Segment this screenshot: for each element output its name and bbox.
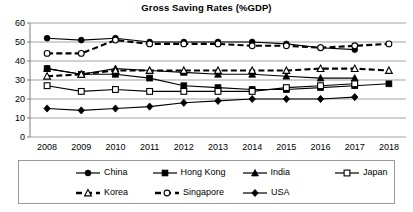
legend-row: ChinaHong KongIndiaJapan	[19, 162, 394, 183]
svg-text:2017: 2017	[345, 142, 365, 152]
svg-text:2013: 2013	[208, 142, 228, 152]
legend-item-label: Japan	[363, 168, 388, 177]
legend-key-icon	[152, 167, 178, 179]
svg-text:20: 20	[15, 94, 25, 104]
series-usa	[44, 94, 358, 115]
svg-text:2012: 2012	[174, 142, 194, 152]
legend-row: KoreaSingaporeUSA	[19, 182, 394, 203]
svg-text:2009: 2009	[71, 142, 91, 152]
legend-item-usa[interactable]: USA	[242, 187, 290, 199]
series-india	[44, 65, 358, 81]
series-japan	[44, 81, 357, 94]
legend-key-icon	[242, 187, 268, 199]
svg-text:30: 30	[15, 75, 25, 85]
svg-text:2016: 2016	[311, 142, 331, 152]
chart-container: Gross Saving Rates (%GDP) 6050403020100 …	[0, 0, 413, 212]
legend-item-india[interactable]: India	[242, 167, 291, 179]
legend-item-label: Singapore	[183, 188, 224, 197]
y-axis-tick-labels: 6050403020100	[15, 18, 25, 142]
legend-item-label: Hong Kong	[181, 168, 226, 177]
svg-text:2011: 2011	[140, 142, 159, 152]
legend-key-icon	[75, 167, 101, 179]
legend-key-icon	[242, 167, 268, 179]
plot-area: 6050403020100 20082009201020112012201320…	[0, 0, 413, 160]
legend-key-icon	[75, 187, 101, 199]
svg-text:50: 50	[15, 37, 25, 47]
svg-text:2008: 2008	[37, 142, 57, 152]
svg-text:60: 60	[15, 18, 25, 28]
legend-item-label: China	[104, 168, 128, 177]
legend-key-icon	[334, 167, 360, 179]
svg-text:2014: 2014	[242, 142, 262, 152]
legend-item-label: Korea	[104, 188, 128, 197]
legend-item-singapore[interactable]: Singapore	[154, 187, 224, 199]
svg-text:2010: 2010	[105, 142, 125, 152]
legend-item-korea[interactable]: Korea	[75, 187, 128, 199]
legend-key-icon	[154, 187, 180, 199]
axis-frame	[27, 23, 30, 137]
svg-text:10: 10	[15, 113, 25, 123]
x-axis-tick-labels: 2008200920102011201220132014201520162017…	[37, 142, 399, 152]
legend-item-hong-kong[interactable]: Hong Kong	[152, 167, 226, 179]
legend-item-japan[interactable]: Japan	[334, 167, 388, 179]
svg-text:0: 0	[20, 132, 25, 142]
svg-text:2015: 2015	[276, 142, 296, 152]
svg-text:40: 40	[15, 56, 25, 66]
chart-legend: ChinaHong KongIndiaJapan KoreaSingaporeU…	[18, 160, 395, 204]
svg-text:2018: 2018	[379, 142, 399, 152]
legend-item-label: USA	[271, 188, 290, 197]
series-layer	[44, 35, 393, 114]
legend-item-label: India	[271, 168, 291, 177]
legend-item-china[interactable]: China	[75, 167, 128, 179]
